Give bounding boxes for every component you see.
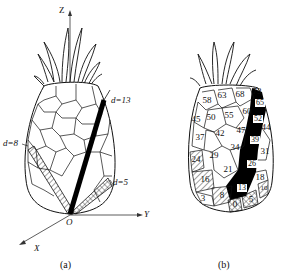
svg-text:5: 5 [249, 194, 254, 204]
svg-text:26: 26 [248, 159, 256, 168]
svg-text:31: 31 [261, 146, 270, 156]
y-axis-label: Y [144, 210, 149, 219]
svg-text:3: 3 [201, 193, 206, 203]
svg-text:16: 16 [201, 174, 211, 184]
svg-text:58: 58 [203, 95, 213, 105]
svg-text:39: 39 [251, 135, 259, 144]
svg-text:13: 13 [238, 183, 246, 192]
svg-text:21: 21 [224, 164, 233, 174]
x-axis-label: X [34, 244, 40, 253]
svg-text:68: 68 [236, 89, 246, 99]
svg-text:42: 42 [216, 128, 225, 138]
svg-text:10: 10 [261, 184, 269, 192]
svg-text:55: 55 [225, 110, 235, 120]
pineapple-a [19, 10, 143, 245]
svg-text:65: 65 [256, 98, 264, 107]
pineapple-b: 58 63 68 73 65 50 55 60 52 45 47 44 37 4… [188, 42, 273, 212]
svg-text:44: 44 [262, 122, 272, 132]
d8-label: d=8 [3, 139, 18, 148]
x-axis [22, 215, 70, 243]
svg-text:8: 8 [220, 190, 225, 200]
diagram-canvas: 58 63 68 73 65 50 55 60 52 45 47 44 37 4… [0, 0, 284, 280]
svg-text:63: 63 [218, 90, 228, 100]
svg-text:18: 18 [256, 172, 266, 182]
d13-label: d=13 [111, 96, 131, 105]
svg-text:73: 73 [253, 86, 263, 96]
z-axis-label: Z [59, 6, 65, 15]
svg-text:24: 24 [192, 154, 202, 164]
caption-b: (b) [218, 259, 230, 270]
crown-a [34, 28, 102, 88]
origin-label: O [66, 218, 73, 227]
svg-text:60: 60 [243, 106, 253, 116]
svg-text:37: 37 [196, 132, 206, 142]
svg-text:29: 29 [210, 150, 220, 160]
caption-a: (a) [60, 259, 71, 270]
d5-label: d=5 [113, 178, 128, 187]
svg-text:0: 0 [233, 199, 238, 209]
svg-text:34: 34 [231, 142, 241, 152]
svg-text:50: 50 [207, 112, 217, 122]
crown-b [190, 42, 256, 86]
svg-text:45: 45 [192, 114, 202, 124]
svg-text:47: 47 [237, 125, 247, 135]
